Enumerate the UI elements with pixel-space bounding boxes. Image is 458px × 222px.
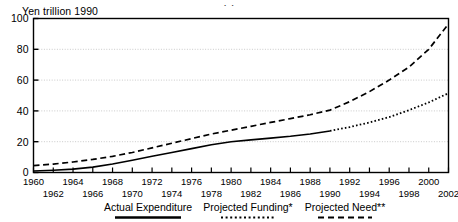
x-tick-label: 1982 <box>240 188 261 199</box>
y-tick-label: 40 <box>17 105 29 117</box>
chart-container: · · Yen trillion 1990 020406080100 19601… <box>0 0 458 222</box>
x-axis-ticks <box>34 168 449 173</box>
plot-border <box>34 19 449 173</box>
x-tick-label: 2002 <box>438 188 458 199</box>
x-tick-label: 1978 <box>201 188 222 199</box>
x-tick-label: 1996 <box>379 176 400 187</box>
x-tick-label: 1990 <box>319 188 340 199</box>
chart-legend: Actual ExpenditureProjected Funding*Proj… <box>104 201 385 218</box>
x-tick-label: 1970 <box>122 188 143 199</box>
x-tick-label: 1966 <box>82 188 103 199</box>
x-tick-label: 1994 <box>359 188 380 199</box>
x-tick-label: 1992 <box>339 176 360 187</box>
series-line <box>330 93 449 131</box>
series-line <box>34 24 449 166</box>
x-tick-label: 1972 <box>142 176 163 187</box>
legend-label: Actual Expenditure <box>104 201 192 213</box>
line-chart-plot: 020406080100 196019641968197219761980198… <box>0 0 458 222</box>
y-axis-ticks: 020406080100 <box>11 12 39 178</box>
x-tick-label: 1976 <box>181 176 202 187</box>
data-series-group <box>34 24 449 171</box>
x-axis-tick-labels: 1960196419681972197619801984198819921996… <box>23 176 458 199</box>
y-tick-label: 80 <box>17 43 29 55</box>
x-tick-label: 1962 <box>43 188 64 199</box>
x-tick-label: 1986 <box>280 188 301 199</box>
series-line <box>34 131 330 171</box>
legend-label: Projected Funding* <box>203 201 292 213</box>
x-tick-label: 1964 <box>62 176 83 187</box>
legend-label: Projected Need** <box>305 201 386 213</box>
y-tick-label: 60 <box>17 74 29 86</box>
plot-frame <box>34 19 449 173</box>
x-tick-label: 1960 <box>23 176 44 187</box>
x-tick-label: 1974 <box>161 188 182 199</box>
x-tick-label: 1984 <box>260 176 281 187</box>
x-tick-label: 2000 <box>418 176 439 187</box>
y-tick-label: 100 <box>11 12 29 24</box>
y-tick-label: 20 <box>17 136 29 148</box>
x-tick-label: 1998 <box>398 188 419 199</box>
x-tick-label: 1968 <box>102 176 123 187</box>
x-tick-label: 1988 <box>300 176 321 187</box>
x-tick-label: 1980 <box>221 176 242 187</box>
